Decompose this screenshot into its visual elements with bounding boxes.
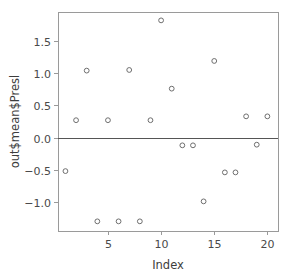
plot-frame <box>59 13 279 232</box>
data-point-marker <box>106 118 111 123</box>
data-point-marker <box>63 169 68 174</box>
x-axis-title: Index <box>152 258 184 272</box>
data-point-marker <box>95 219 100 224</box>
data-point-marker <box>212 59 217 64</box>
data-point-marker <box>116 219 121 224</box>
plot-frame-rect <box>59 13 279 232</box>
data-point-marker <box>222 170 227 175</box>
data-point-marker <box>74 118 79 123</box>
y-tick-label: −1.0 <box>24 197 51 210</box>
data-point-marker <box>84 68 89 73</box>
y-tick-label: 1.5 <box>34 36 52 49</box>
plot-canvas: −1.0−0.50.00.51.01.5 5101520 Index out$m… <box>0 0 297 276</box>
scatter-plot-figure: −1.0−0.50.00.51.01.5 5101520 Index out$m… <box>0 0 297 276</box>
data-point-marker <box>180 143 185 148</box>
x-tick-label: 5 <box>105 238 112 251</box>
data-point-marker <box>244 114 249 119</box>
data-point-marker <box>148 118 153 123</box>
x-tick-label: 20 <box>261 238 275 251</box>
x-tick-label: 15 <box>208 238 222 251</box>
data-point-marker <box>137 219 142 224</box>
data-point-marker <box>201 199 206 204</box>
data-point-marker <box>265 114 270 119</box>
x-axis-ticks: 5101520 <box>105 231 275 251</box>
data-point-marker <box>233 170 238 175</box>
y-tick-label: −0.5 <box>24 165 51 178</box>
y-tick-label: 1.0 <box>34 68 52 81</box>
data-point-marker <box>169 86 174 91</box>
y-tick-label: 0.5 <box>34 100 52 113</box>
data-point-marker <box>191 143 196 148</box>
x-tick-label: 10 <box>155 238 169 251</box>
data-point-marker <box>127 68 132 73</box>
data-point-marker <box>254 142 259 147</box>
data-points <box>63 18 270 224</box>
data-point-marker <box>159 18 164 23</box>
y-axis-title: out$mean$Presl <box>8 75 22 169</box>
y-axis-ticks: −1.0−0.50.00.51.01.5 <box>24 36 58 210</box>
y-tick-label: 0.0 <box>34 133 52 146</box>
